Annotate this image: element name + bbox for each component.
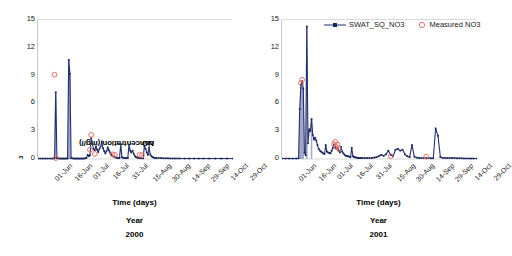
x-tick-label: 01-Jul	[92, 162, 110, 180]
y-tick-label: 0	[13, 154, 35, 162]
y-tick-label: 12	[13, 43, 35, 51]
legend-label-measured: Measured NO3	[430, 20, 481, 29]
y-tick-label: 0	[257, 154, 279, 162]
x-tick-label: 16-Jun	[73, 162, 93, 182]
y-tick-label: 6	[257, 98, 279, 106]
x-tick-label: 14-Oct	[473, 162, 493, 182]
x-tick-label: 29-Sep	[454, 162, 475, 183]
y-tick-label: 3	[13, 126, 35, 134]
caption-year-label-2001: Year	[281, 216, 476, 225]
x-tick-label: 29-Sep	[210, 162, 231, 183]
plot-area-2001	[281, 19, 476, 158]
chart-panel-2000: NO3 concentration (mg/l) 03691215 01-Jun…	[0, 0, 246, 256]
y-axis-title: NO3 concentration (mg/l)	[2, 18, 16, 160]
x-axis-title-2000: Time (days)	[37, 198, 232, 207]
x-tick-label: 15-Aug	[151, 162, 172, 183]
measured-series-markers	[52, 72, 144, 160]
x-tick-label: 31-Jul	[375, 162, 393, 180]
legend-circle-marker-icon	[417, 21, 427, 29]
x-tick-label: 14-Sep	[190, 162, 211, 183]
legend-line-marker-icon	[324, 21, 346, 29]
x-tick-label: 01-Jun	[297, 162, 317, 182]
x-tick-label: 01-Jul	[336, 162, 354, 180]
x-tick-label: 30-Aug	[415, 162, 436, 183]
legend-entry-simulated: SWAT_SQ_NO3	[324, 20, 404, 29]
series-canvas	[282, 20, 477, 161]
x-tick-label: 16-Jul	[355, 162, 373, 180]
y-tick-label: 9	[13, 71, 35, 79]
chart-panel-2001: 03691215 01-Jun16-Jun01-Jul16-Jul31-Jul1…	[246, 0, 492, 256]
x-tick-label: 14-Sep	[434, 162, 455, 183]
x-tick-label: 31-Jul	[131, 162, 149, 180]
x-tick-label: 01-Jun	[53, 162, 73, 182]
x-tick-label: 16-Jul	[111, 162, 129, 180]
x-tick-label: 15-Aug	[395, 162, 416, 183]
y-axis-ticks-2000: 03691215	[11, 19, 35, 20]
simulated-series-line	[38, 60, 233, 159]
y-axis-ticks-2001: 03691215	[255, 19, 279, 20]
y-tick-label: 9	[257, 71, 279, 79]
x-tick-label: 29-Oct	[492, 162, 512, 182]
x-axis-ticks-2001: 01-Jun16-Jun01-Jul16-Jul31-Jul15-Aug30-A…	[281, 160, 476, 200]
plot-area-2000	[37, 19, 232, 158]
x-tick-label: 30-Aug	[171, 162, 192, 183]
x-tick-label: 16-Jun	[317, 162, 337, 182]
y-tick-label: 15	[13, 15, 35, 23]
legend-entry-measured: Measured NO3	[417, 20, 481, 29]
caption-year-value-2000: 2000	[37, 230, 232, 239]
chart-legend: SWAT_SQ_NO3 Measured NO3	[324, 20, 490, 31]
y-tick-label: 6	[13, 98, 35, 106]
y-tick-label: 3	[257, 126, 279, 134]
caption-year-label-2000: Year	[37, 216, 232, 225]
x-axis-ticks-2000: 01-Jun16-Jun01-Jul16-Jul31-Jul15-Aug30-A…	[37, 160, 232, 200]
caption-year-value-2001: 2001	[281, 230, 476, 239]
y-tick-label: 12	[257, 43, 279, 51]
y-tick-label: 15	[257, 15, 279, 23]
series-canvas	[38, 20, 233, 161]
x-axis-title-2001: Time (days)	[281, 198, 476, 207]
legend-label-simulated: SWAT_SQ_NO3	[349, 20, 404, 29]
